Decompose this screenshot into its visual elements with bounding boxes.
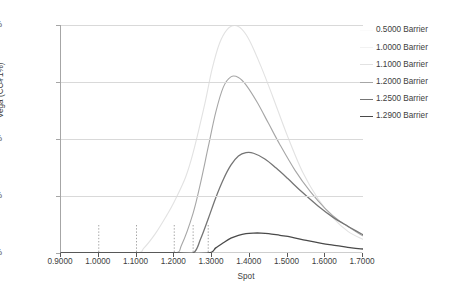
legend-swatch-icon (360, 82, 373, 83)
legend-item[interactable]: 1.2900 Barrier (360, 108, 468, 125)
y-axis-tick-label: 0.00% (0, 248, 2, 257)
legend-item[interactable]: 1.2500 Barrier (360, 91, 468, 108)
x-axis-tick-label: 1.7000 (332, 257, 392, 266)
legend-swatch-icon (360, 99, 373, 100)
x-axis-tickmark (249, 253, 250, 257)
x-axis-tickmark (362, 253, 363, 257)
x-axis-tickmark (136, 253, 137, 257)
barrier-markers (61, 25, 363, 253)
legend-item[interactable]: 1.1000 Barrier (360, 56, 468, 73)
legend-item-label: 1.1000 Barrier (376, 61, 428, 69)
legend-item[interactable]: 0.5000 Barrier (360, 22, 468, 39)
legend-item[interactable]: 1.0000 Barrier (360, 39, 468, 56)
y-axis-tick-label: 0.30% (0, 77, 2, 86)
plot-area (60, 25, 362, 253)
x-axis-tickmark (211, 253, 212, 257)
legend-item-label: 0.5000 Barrier (376, 26, 428, 34)
vega-barrier-line-chart: Vega (CCY1%) 0.00%0.10%0.20%0.30%0.40% 0… (0, 0, 470, 300)
legend-swatch-icon (360, 30, 373, 31)
legend-swatch-icon (360, 47, 373, 48)
y-axis-tick-label: 0.10% (0, 191, 2, 200)
legend-item[interactable]: 1.2000 Barrier (360, 74, 468, 91)
x-axis-tickmark (98, 253, 99, 257)
x-axis-tickmark (173, 253, 174, 257)
y-axis-title: Vega (CCY1%) (0, 62, 5, 118)
y-axis-tick-label: 0.40% (0, 20, 2, 29)
y-axis-tick-label: 0.20% (0, 134, 2, 143)
x-axis-tickmark (324, 253, 325, 257)
legend-item-label: 1.2900 Barrier (376, 112, 428, 120)
chart-legend: 0.5000 Barrier1.0000 Barrier1.1000 Barri… (360, 22, 468, 125)
legend-item-label: 1.2500 Barrier (376, 95, 428, 103)
legend-swatch-icon (360, 64, 373, 65)
legend-item-label: 1.2000 Barrier (376, 78, 428, 86)
x-axis-tickmark (287, 253, 288, 257)
legend-swatch-icon (360, 116, 373, 117)
x-axis-tickmark (60, 253, 61, 257)
x-axis-title: Spot (0, 272, 470, 281)
legend-item-label: 1.0000 Barrier (376, 44, 428, 52)
